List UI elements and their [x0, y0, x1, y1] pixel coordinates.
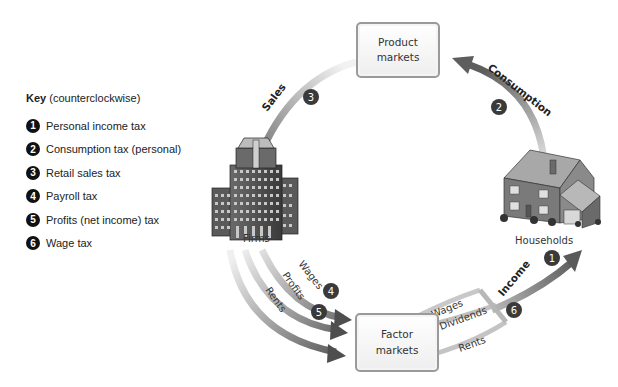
- house-icon: [500, 150, 601, 228]
- badge-2-number: 2: [496, 102, 502, 113]
- badge-4-number: 4: [328, 286, 334, 297]
- badge-6-number: 6: [511, 305, 517, 316]
- circular-flow-diagram: Sales Consumption Wages Profits Rents Wa…: [0, 0, 618, 387]
- badge-1-number: 1: [549, 253, 555, 264]
- factor-markets-line2: markets: [376, 343, 419, 358]
- office-building-icon: [212, 138, 298, 240]
- badge-2: 2: [491, 99, 507, 115]
- households-label: Households: [515, 235, 573, 246]
- product-markets-box: Productmarkets: [356, 22, 440, 78]
- badge-4: 4: [323, 283, 339, 299]
- badge-5-number: 5: [316, 307, 322, 318]
- factor-markets-line1: Factor: [376, 327, 419, 342]
- badge-3-number: 3: [308, 92, 314, 103]
- badge-3: 3: [303, 89, 319, 105]
- product-markets-line1: Product: [377, 35, 420, 50]
- hh-rents-label: Rents: [457, 334, 487, 354]
- factor-markets-box: Factormarkets: [355, 313, 439, 372]
- badge-1: 1: [544, 250, 560, 266]
- product-markets-line2: markets: [377, 50, 420, 65]
- badge-5: 5: [311, 304, 327, 320]
- badge-6: 6: [506, 302, 522, 318]
- firms-label: Firms: [243, 233, 270, 244]
